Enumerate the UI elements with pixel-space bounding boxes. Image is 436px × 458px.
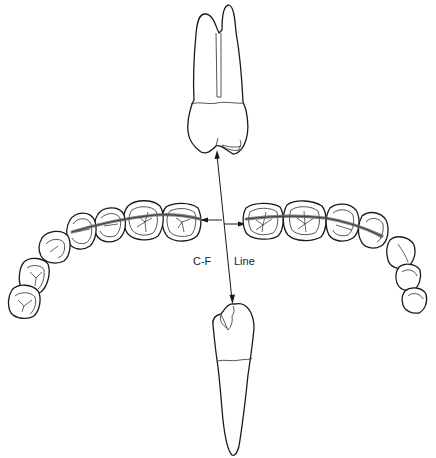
upper-tooth	[188, 5, 248, 154]
cf-line	[215, 150, 236, 304]
right-arch	[243, 201, 427, 313]
lower-tooth	[213, 304, 254, 456]
cf-label-left: C-F	[193, 255, 211, 267]
cf-label-right: Line	[234, 255, 255, 267]
left-arch	[8, 201, 200, 319]
dental-diagram: C-F Line	[0, 0, 436, 458]
horizontal-arrows	[200, 218, 246, 227]
